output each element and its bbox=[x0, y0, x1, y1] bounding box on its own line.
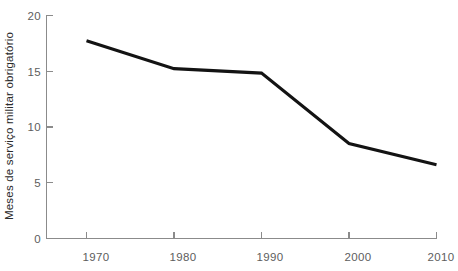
x-tick-label-1970: 1970 bbox=[82, 251, 109, 263]
y-tick-label-15: 15 bbox=[27, 66, 41, 78]
x-tick-label-1990: 1990 bbox=[256, 251, 283, 263]
y-tick-label-0: 0 bbox=[34, 233, 41, 245]
x-tick-label-1980: 1980 bbox=[169, 251, 196, 263]
chart-background bbox=[0, 0, 458, 271]
y-tick-label-20: 20 bbox=[27, 10, 41, 22]
line-chart-figure: Meses de serviço militar obrigatório 20 … bbox=[0, 0, 458, 271]
y-axis-title: Meses de serviço militar obrigatório bbox=[3, 32, 15, 220]
x-tick-label-2010: 2010 bbox=[427, 251, 454, 263]
x-tick-label-2000: 2000 bbox=[344, 251, 371, 263]
y-tick-label-5: 5 bbox=[34, 177, 41, 189]
chart-plot-area: Meses de serviço militar obrigatório 20 … bbox=[0, 0, 458, 271]
y-tick-label-10: 10 bbox=[27, 121, 41, 133]
